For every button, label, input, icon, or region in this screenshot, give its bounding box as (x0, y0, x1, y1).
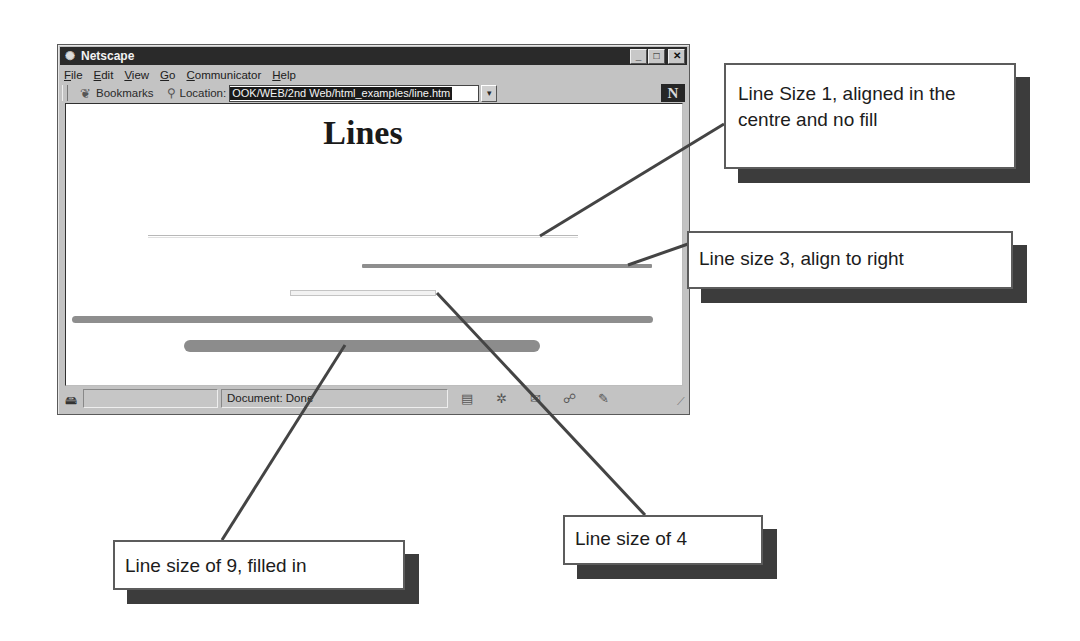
callout-text: Line size 3, align to right (699, 248, 904, 269)
callout-text: Line Size 1, aligned in the centre and n… (738, 83, 956, 130)
leader-size-4 (437, 293, 645, 515)
callout-size-9: Line size of 9, filled in (113, 540, 405, 590)
callout-size-3: Line size 3, align to right (687, 231, 1013, 289)
leader-size-3 (628, 244, 688, 265)
callout-size-4: Line size of 4 (563, 515, 763, 565)
callout-text: Line size of 9, filled in (125, 555, 307, 576)
callout-text: Line size of 4 (575, 528, 687, 549)
leader-size-9 (222, 345, 345, 540)
leader-size-1 (540, 124, 724, 236)
callout-size-1: Line Size 1, aligned in the centre and n… (724, 63, 1016, 169)
